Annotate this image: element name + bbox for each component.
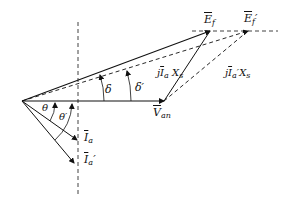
delta-arc xyxy=(100,75,104,101)
theta-label: θ xyxy=(42,103,48,113)
ef-phasor xyxy=(22,31,210,101)
jiaxs-prime-label: jIa′Xs xyxy=(225,68,250,80)
theta-prime-label: θ′ xyxy=(59,112,67,122)
delta-prime-arc xyxy=(127,71,131,101)
ia-label: Ia xyxy=(84,132,93,145)
van-label: Van xyxy=(153,107,171,120)
ef-prime-label: Ef′ xyxy=(244,13,258,26)
theta-arc xyxy=(50,103,55,121)
ef-label: Ef xyxy=(204,14,215,27)
jiaxs-prime-phasor xyxy=(164,31,248,101)
jiaxs-phasor xyxy=(164,31,210,101)
delta-prime-label: δ′ xyxy=(135,82,144,93)
ia-prime-label: Ia′ xyxy=(84,154,96,167)
delta-label: δ xyxy=(105,84,112,95)
phasor-diagram: Ef Ef′ jIa Xs jIa′Xs Van Ia Ia′ δ δ′ θ θ… xyxy=(0,0,293,212)
jiaxs-label: jIa Xs xyxy=(157,68,183,80)
